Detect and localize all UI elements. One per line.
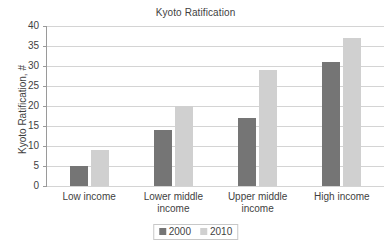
y-axis-tick-label: 0 — [13, 181, 39, 191]
legend-item-2010[interactable]: 2010 — [200, 226, 232, 237]
y-axis-tick-label: 25 — [13, 81, 39, 91]
y-axis-tick-label: 30 — [13, 61, 39, 71]
x-axis-label-upper-middle-income: Upper middle income — [216, 191, 300, 214]
x-axis-label-lower-middle-income: Lower middle income — [131, 191, 215, 214]
legend-item-2000[interactable]: 2000 — [159, 226, 191, 237]
bar-2000-low-income — [70, 166, 88, 186]
gridline — [47, 26, 384, 27]
x-axis-label-high-income: High income — [300, 191, 384, 203]
kyoto-ratification-bar-chart: Kyoto Ratification Kyoto Ratification, #… — [0, 0, 391, 249]
bar-2000-high-income — [322, 62, 340, 186]
y-axis-tick-label: 20 — [13, 101, 39, 111]
y-axis-tick-label: 40 — [13, 21, 39, 31]
legend-swatch-icon — [159, 228, 166, 235]
y-axis-tick-label: 35 — [13, 41, 39, 51]
chart-legend: 20002010 — [153, 224, 239, 240]
plot-area — [47, 26, 384, 186]
gridline — [47, 46, 384, 47]
x-axis-label-low-income: Low income — [47, 191, 131, 203]
y-axis-tick-label: 5 — [13, 161, 39, 171]
bar-2000-upper-middle-income — [238, 118, 256, 186]
legend-label: 2010 — [210, 226, 232, 237]
bar-2010-high-income — [343, 38, 361, 186]
y-axis-tick-label: 15 — [13, 121, 39, 131]
gridline — [47, 186, 384, 187]
bar-2010-low-income — [91, 150, 109, 186]
legend-label: 2000 — [169, 226, 191, 237]
bar-2010-lower-middle-income — [175, 106, 193, 186]
legend-swatch-icon — [200, 228, 207, 235]
bar-2000-lower-middle-income — [154, 130, 172, 186]
y-axis-tick-label: 10 — [13, 141, 39, 151]
chart-title: Kyoto Ratification — [0, 7, 391, 18]
bar-2010-upper-middle-income — [259, 70, 277, 186]
